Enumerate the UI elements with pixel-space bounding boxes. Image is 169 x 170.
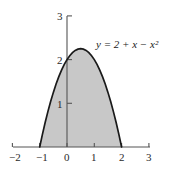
x-tick-label--1: −1 [36, 152, 48, 163]
x-tick-label-3: 3 [146, 152, 152, 163]
y-tick-label-1: 1 [57, 99, 63, 110]
x-tick-label-0: 0 [64, 152, 70, 163]
x-tick-label--2: −2 [9, 152, 21, 163]
plot-area [0, 0, 169, 170]
figure-container: −2 −1 0 1 2 3 1 2 3 y = 2 + x − x² [0, 0, 169, 170]
curve-equation-label: y = 2 + x − x² [96, 39, 158, 50]
y-tick-label-3: 3 [57, 11, 63, 22]
x-tick-label-1: 1 [91, 152, 97, 163]
x-tick-label-2: 2 [119, 152, 125, 163]
y-tick-label-2: 2 [57, 55, 63, 66]
